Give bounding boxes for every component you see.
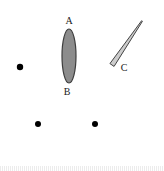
dot-left [17,64,23,70]
footer-strip [0,166,164,171]
figure-graphics [0,0,164,171]
dot-bottom-right [92,121,98,127]
label-b: B [64,87,71,97]
figure-canvas: A B C [0,0,164,171]
label-a: A [65,16,72,26]
ellipse-shape-ab [62,29,76,83]
label-c: C [121,63,128,73]
dot-bottom-left [35,121,41,127]
